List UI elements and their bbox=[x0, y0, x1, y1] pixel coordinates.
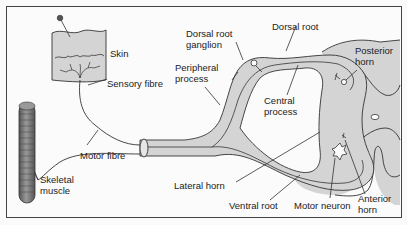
label-anterior-horn-1: Anterior bbox=[358, 193, 391, 204]
skin-block bbox=[52, 15, 106, 82]
label-posterior-horn-2: horn bbox=[355, 56, 374, 67]
label-posterior-horn-1: Posterior bbox=[355, 45, 393, 56]
label-central-process-2: process bbox=[264, 106, 297, 117]
label-dorsal-root-ganglion-2: ganglion bbox=[186, 39, 222, 50]
label-ventral-root: Ventral root bbox=[229, 200, 278, 211]
label-dorsal-root: Dorsal root bbox=[272, 21, 318, 32]
label-dorsal-root-ganglion-1: Dorsal root bbox=[186, 28, 232, 39]
label-skeletal-muscle-1: Skeletal bbox=[40, 174, 74, 185]
label-motor-fibre: Motor fibre bbox=[80, 150, 125, 161]
label-skin: Skin bbox=[110, 48, 128, 59]
sensory-fibre bbox=[80, 80, 140, 145]
label-central-process-1: Central bbox=[264, 95, 295, 106]
label-anterior-horn-2: horn bbox=[358, 204, 377, 215]
label-peripheral-process-2: process bbox=[175, 73, 208, 84]
label-sensory-fibre: Sensory fibre bbox=[107, 78, 163, 89]
central-canal bbox=[371, 114, 379, 119]
label-skeletal-muscle-2: muscle bbox=[40, 185, 70, 196]
pin-icon bbox=[57, 15, 63, 21]
label-peripheral-process-1: Peripheral bbox=[175, 62, 218, 73]
skeletal-muscle bbox=[19, 102, 35, 203]
label-motor-neuron: Motor neuron bbox=[294, 200, 351, 211]
label-lateral-horn: Lateral horn bbox=[174, 180, 225, 191]
